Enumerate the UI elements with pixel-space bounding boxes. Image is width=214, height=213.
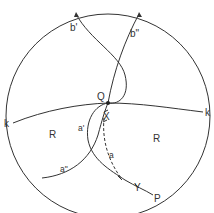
diagram-canvas: b' b" Q X Y P k k R R a a' a" [0, 0, 214, 213]
a-prime-curve [87, 103, 153, 195]
label-Q: Q [97, 91, 105, 102]
label-a-prime: a' [78, 123, 85, 133]
label-Y: Y [134, 182, 141, 193]
label-a: a [109, 150, 114, 160]
point-Q [106, 101, 110, 105]
b-prime-arrow-icon [74, 12, 79, 17]
b-double-prime-arrow-icon [137, 12, 142, 17]
b-prime-curve [76, 14, 126, 103]
label-a-double-prime: a" [60, 164, 68, 174]
label-b-double-prime: b" [130, 28, 140, 39]
a-double-prime-curve [42, 103, 108, 178]
a-dashed-curve [104, 118, 121, 178]
label-P: P [154, 193, 161, 204]
label-b-prime: b' [70, 22, 78, 33]
label-k-left: k [4, 118, 10, 129]
label-R-left: R [49, 129, 56, 140]
label-R-right: R [153, 133, 160, 144]
label-X: X [103, 111, 110, 122]
